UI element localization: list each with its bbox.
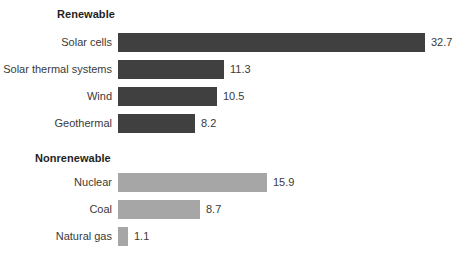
bar-nuclear [118, 173, 267, 192]
bar-row-coal: Coal 8.7 [0, 200, 471, 219]
bar-chart: Renewable Solar cells 32.7 Solar thermal… [0, 0, 471, 265]
group-heading-renewable: Renewable [57, 8, 115, 20]
bar-row-natural-gas: Natural gas 1.1 [0, 227, 471, 246]
value-label-geothermal: 8.2 [201, 114, 216, 133]
category-label-solar-thermal-systems: Solar thermal systems [0, 60, 112, 79]
group-heading-nonrenewable: Nonrenewable [35, 152, 111, 164]
bar-natural-gas [118, 227, 128, 246]
category-label-nuclear: Nuclear [0, 173, 112, 192]
bar-solar-thermal-systems [118, 60, 224, 79]
bar-row-nuclear: Nuclear 15.9 [0, 173, 471, 192]
bar-wind [118, 87, 217, 106]
category-label-geothermal: Geothermal [0, 114, 112, 133]
category-label-wind: Wind [0, 87, 112, 106]
value-label-solar-cells: 32.7 [431, 33, 452, 52]
value-label-solar-thermal-systems: 11.3 [230, 60, 251, 79]
bar-coal [118, 200, 200, 219]
category-label-natural-gas: Natural gas [0, 227, 112, 246]
value-label-wind: 10.5 [223, 87, 244, 106]
value-label-natural-gas: 1.1 [134, 227, 149, 246]
bar-row-geothermal: Geothermal 8.2 [0, 114, 471, 133]
value-label-coal: 8.7 [206, 200, 221, 219]
bar-row-solar-thermal-systems: Solar thermal systems 11.3 [0, 60, 471, 79]
bar-row-solar-cells: Solar cells 32.7 [0, 33, 471, 52]
bar-solar-cells [118, 33, 425, 52]
bar-geothermal [118, 114, 195, 133]
value-label-nuclear: 15.9 [273, 173, 294, 192]
bar-row-wind: Wind 10.5 [0, 87, 471, 106]
category-label-solar-cells: Solar cells [0, 33, 112, 52]
category-label-coal: Coal [0, 200, 112, 219]
